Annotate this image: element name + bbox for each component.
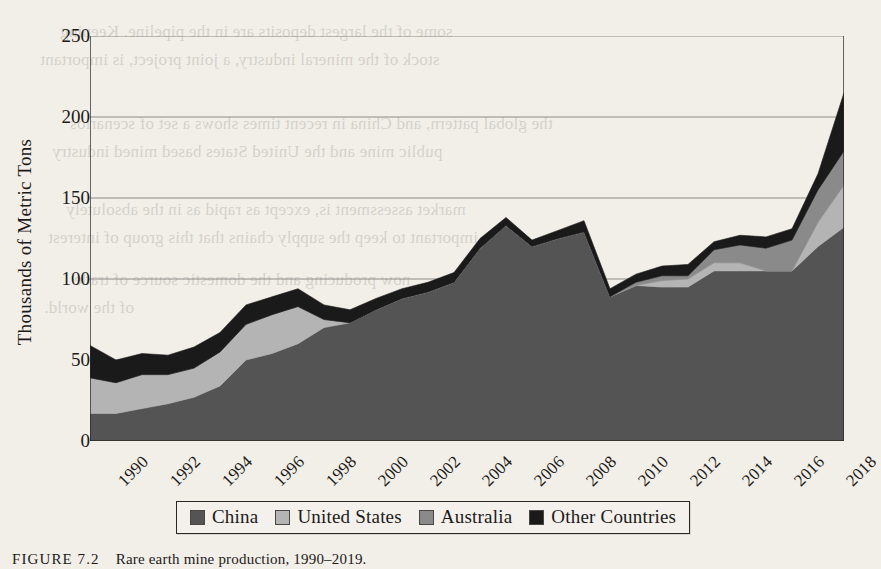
x-tick-label: 2002 (426, 452, 465, 491)
x-tick-label: 2012 (686, 452, 725, 491)
chart-legend: ChinaUnited StatesAustraliaOther Countri… (176, 501, 690, 534)
legend-item-other-countries[interactable]: Other Countries (529, 506, 676, 528)
x-tick-label: 1990 (114, 452, 153, 491)
legend-swatch-icon (190, 510, 205, 525)
x-tick-label: 1998 (322, 452, 361, 491)
x-tick-label: 1992 (166, 452, 205, 491)
figure-caption-text: Rare earth mine production, 1990–2019. (116, 551, 367, 567)
legend-swatch-icon (529, 510, 544, 525)
x-tick-label: 2016 (790, 452, 829, 491)
legend-item-china[interactable]: China (190, 506, 258, 528)
legend-label: Other Countries (551, 506, 676, 528)
legend-label: Australia (441, 506, 512, 528)
figure-caption: FIGURE 7.2Rare earth mine production, 19… (12, 551, 842, 568)
x-tick-label: 2006 (530, 452, 569, 491)
legend-swatch-icon (419, 510, 434, 525)
legend-item-australia[interactable]: Australia (419, 506, 512, 528)
x-tick-label: 2014 (738, 452, 777, 491)
figure-number: FIGURE 7.2 (12, 551, 100, 567)
x-tick-label: 2004 (478, 452, 517, 491)
x-tick-label: 1994 (218, 452, 257, 491)
legend-label: United States (297, 506, 401, 528)
x-tick-label: 2018 (842, 452, 881, 491)
legend-swatch-icon (275, 510, 290, 525)
legend-item-united-states[interactable]: United States (275, 506, 401, 528)
x-tick-label: 2008 (582, 452, 621, 491)
x-tick-label: 1996 (270, 452, 309, 491)
x-tick-label: 2010 (634, 452, 673, 491)
legend-label: China (212, 506, 258, 528)
x-tick-label: 2000 (374, 452, 413, 491)
